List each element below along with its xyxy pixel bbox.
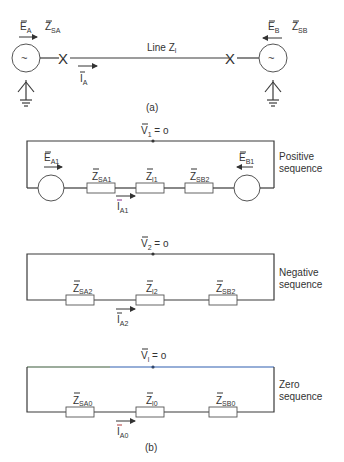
caption-a: (a)	[146, 102, 158, 113]
emf-b-label: EB	[268, 21, 280, 34]
zl0-label: Zl0	[146, 395, 158, 407]
zsa-label: ZSA	[45, 21, 61, 34]
caption-b: (b)	[145, 442, 157, 453]
zl1-impedance	[136, 183, 164, 193]
source-b: EB ZSB ~	[259, 21, 308, 106]
ground-b-icon	[265, 80, 281, 106]
single-line-diagram: EA ZSA ~ X Line Zl IA X	[12, 21, 308, 113]
zsb2-impedance	[209, 295, 237, 305]
ia1-label: IA1	[117, 201, 128, 214]
zsb0-label: ZSB0	[216, 395, 235, 407]
positive-subtitle: sequence	[279, 163, 323, 174]
negative-subtitle: sequence	[279, 279, 323, 290]
negative-title: Negative	[279, 267, 319, 278]
negative-sequence-network: V2 = o ZSA2 Zl2 ZSB2 IA2 Negative sequen…	[27, 237, 323, 327]
ac-symbol: ~	[21, 52, 27, 64]
zsa0-label: ZSA0	[73, 395, 92, 407]
zsa1-label: ZSA1	[92, 171, 111, 183]
ac-symbol: ~	[268, 52, 274, 64]
ia0-label: IA0	[117, 426, 128, 439]
zsa2-impedance	[66, 295, 94, 305]
emf-a-label: EA	[20, 21, 32, 34]
emf-b1-source-icon	[234, 175, 260, 201]
zsb-label: ZSB	[292, 21, 308, 34]
breaker-a-icon: X	[58, 50, 68, 67]
sequence-network-diagram: EA ZSA ~ X Line Zl IA X	[0, 0, 344, 462]
zl0-impedance	[136, 407, 164, 417]
zsb2-label: ZSB2	[190, 171, 209, 183]
zsa2-label: ZSA2	[73, 283, 92, 295]
zl2-label: Zl2	[146, 283, 158, 295]
v0-label: Vl = o	[141, 350, 167, 363]
positive-title: Positive	[279, 151, 314, 162]
zsb0-impedance	[209, 407, 237, 417]
v2-label: V2 = o	[141, 238, 169, 251]
zsa1-impedance	[87, 183, 115, 193]
ground-a-icon	[18, 80, 34, 106]
zero-subtitle: sequence	[279, 391, 323, 402]
source-a: EA ZSA ~	[12, 21, 61, 106]
line-label: Line Zl	[147, 42, 177, 54]
breaker-b-icon: X	[225, 50, 235, 67]
zsa0-impedance	[66, 407, 94, 417]
zl1-label: Zl1	[146, 171, 158, 183]
zsb2-label: ZSB2	[216, 283, 235, 295]
ia2-label: IA2	[117, 314, 128, 327]
eb1-label: EB1	[239, 152, 254, 165]
zsb2-impedance	[185, 183, 213, 193]
zero-title: Zero	[279, 379, 300, 390]
v1-label: V1 = o	[141, 125, 169, 138]
emf-a1-source-icon	[38, 175, 64, 201]
positive-sequence-network: V1 = o EA1 EB1 ZSA1 Zl1 ZSB2 IA1 Positiv…	[27, 124, 323, 214]
zl2-impedance	[136, 295, 164, 305]
zero-sequence-network: Vl = o ZSA0 Zl0 ZSB0 IA0 Zero sequence (…	[27, 349, 323, 453]
current-a-label: IA	[80, 73, 88, 86]
ea1-label: EA1	[44, 152, 59, 165]
